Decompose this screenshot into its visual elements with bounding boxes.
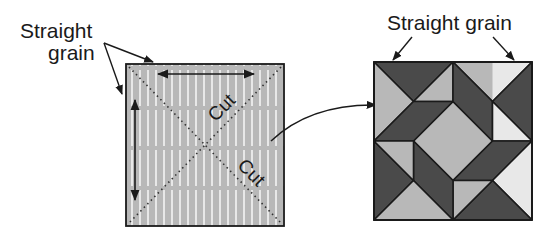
pointer-arrow-left-edge (104, 43, 122, 94)
quilt-block (374, 62, 532, 220)
left-panel: Straight grain Cut Cut (20, 19, 284, 226)
right-panel: Straight grain (374, 11, 532, 220)
pointer-arrow-top-edge (104, 43, 153, 62)
pointer-arrow-right-corner (493, 37, 514, 60)
fabric-square (126, 64, 284, 226)
straight-grain-label-line1: Straight (20, 19, 93, 42)
straight-grain-label-right: Straight grain (387, 11, 512, 34)
pointer-arrow-left-corner (393, 37, 412, 60)
straight-grain-label-line2: grain (48, 41, 95, 64)
quilt-diagram: Straight grain Cut Cut Straight grain (0, 0, 552, 240)
connector-arrow (271, 105, 376, 141)
